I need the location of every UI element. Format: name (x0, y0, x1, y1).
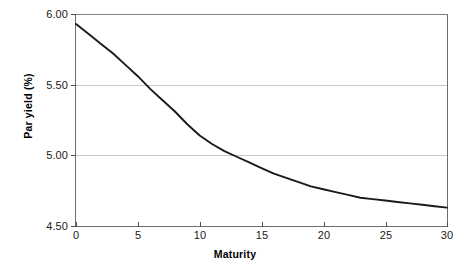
series-par-yield-curve (76, 24, 447, 208)
chart-figure: 6.00 5.50 5.00 4.50 0 5 10 15 20 25 30 P… (0, 0, 470, 272)
curve-svg (0, 0, 470, 272)
